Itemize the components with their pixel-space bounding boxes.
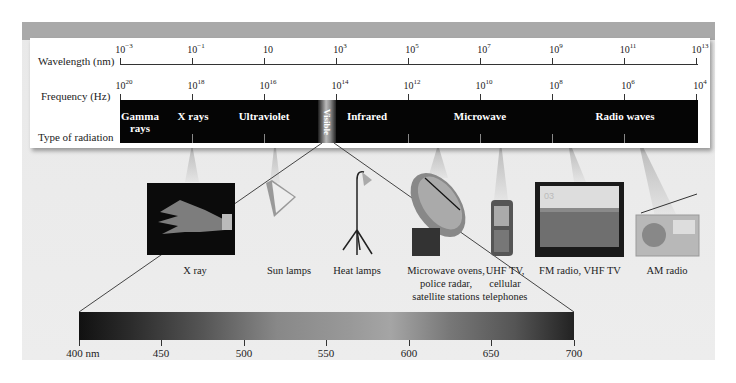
spectrum-tick xyxy=(79,340,80,346)
satellite-dish-icon xyxy=(399,163,476,256)
spectrum-tick-label: 650 xyxy=(483,347,500,359)
label-xray: X ray xyxy=(183,264,207,277)
cell-phone-icon xyxy=(491,200,513,256)
sun-lamp-icon xyxy=(266,180,296,217)
label-am: AM radio xyxy=(646,264,687,277)
heat-lamp-icon xyxy=(343,172,372,255)
spectrum-tick-label: 500 xyxy=(236,347,253,359)
spectrum-tick-label: 600 xyxy=(401,347,418,359)
label-heat-lamps: Heat lamps xyxy=(333,264,381,277)
label-microwave: Microwave ovens,police radar,satellite s… xyxy=(407,264,485,303)
spectrum-tick xyxy=(574,340,575,346)
spectrum-tick-label: 450 xyxy=(153,347,170,359)
radio-icon xyxy=(636,194,699,256)
spectrum-tick xyxy=(161,340,162,346)
spectrum-tick xyxy=(491,340,492,346)
spectrum-tick xyxy=(244,340,245,346)
svg-text:03: 03 xyxy=(544,191,554,201)
spectrum-tick-label: 700 xyxy=(566,347,583,359)
xray-hand-icon xyxy=(147,183,235,255)
visible-spectrum-bar xyxy=(79,312,574,340)
label-uhf: UHF TV,cellulartelephones xyxy=(483,264,528,303)
label-sun-lamps: Sun lamps xyxy=(267,264,311,277)
spectrum-tick xyxy=(409,340,410,346)
television-icon: 03 xyxy=(535,182,624,257)
spectrum-tick-label: 550 xyxy=(318,347,335,359)
label-fm: FM radio, VHF TV xyxy=(539,264,621,277)
spectrum-tick-label: 400 nm xyxy=(66,347,99,359)
spectrum-tick xyxy=(326,340,327,346)
